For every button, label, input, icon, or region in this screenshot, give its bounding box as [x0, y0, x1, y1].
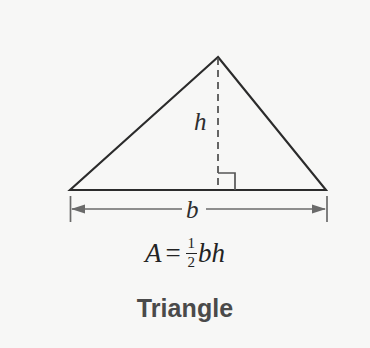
dimension-arrowhead-left-icon: [71, 205, 85, 214]
formula-area-symbol: A: [145, 238, 162, 268]
right-angle-marker-icon: [218, 173, 235, 190]
formula-terms: bh: [198, 238, 225, 268]
formula-fraction-one-half: 12: [186, 236, 198, 270]
shape-title: Triangle: [0, 296, 370, 321]
formula-equals-sign: =: [165, 238, 180, 268]
fraction-numerator: 1: [186, 236, 198, 252]
dimension-arrowhead-right-icon: [312, 205, 326, 214]
base-label: b: [186, 197, 199, 222]
area-formula: A=12bh: [0, 236, 370, 270]
height-label: h: [194, 109, 207, 134]
fraction-denominator: 2: [186, 255, 198, 271]
triangle-figure: h b A=12bh Triangle: [0, 0, 370, 348]
